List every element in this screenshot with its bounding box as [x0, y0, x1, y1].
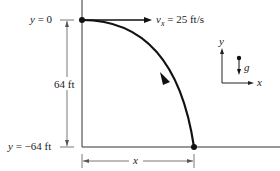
axis-y-arrow-icon	[220, 48, 224, 54]
label-axis-y: y	[219, 36, 224, 47]
dim-x-arrow-left-icon	[83, 159, 89, 163]
landing-point	[191, 144, 197, 150]
trajectory-curve	[82, 20, 194, 147]
gravity-arrow-icon	[237, 69, 241, 75]
axis-x-arrow-icon	[248, 81, 254, 85]
velocity-arrowhead-icon	[144, 17, 152, 23]
label-y-top: y = 0	[30, 14, 52, 25]
dim-x-arrow-right-icon	[187, 159, 193, 163]
projectile-diagram: y = 0 y = −64 ft 64 ft vx = 25 ft/s x x …	[0, 0, 280, 171]
label-horizontal-distance: x	[133, 155, 138, 166]
trajectory-arrow-icon	[160, 72, 170, 85]
label-height: 64 ft	[54, 79, 74, 90]
label-velocity: vx = 25 ft/s	[156, 14, 204, 28]
label-y-bottom: y = −64 ft	[8, 141, 51, 152]
dim-arrow-up-icon	[65, 21, 69, 27]
label-gravity: g	[244, 62, 250, 73]
dim-arrow-down-icon	[65, 140, 69, 146]
label-axis-x: x	[257, 77, 262, 88]
